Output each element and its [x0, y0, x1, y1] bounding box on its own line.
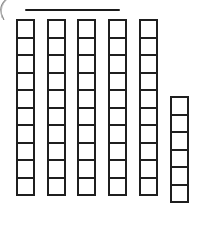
rod-4[interactable] [108, 19, 127, 196]
unit-square[interactable] [47, 177, 66, 197]
unit-square[interactable] [77, 177, 96, 197]
unit-square[interactable] [139, 177, 158, 197]
top-horizontal-rule [25, 9, 120, 11]
rod-2[interactable] [47, 19, 66, 196]
unit-square[interactable] [16, 177, 35, 197]
unit-square[interactable] [108, 177, 127, 197]
rod-5[interactable] [139, 19, 158, 196]
unit-square[interactable] [170, 184, 189, 204]
figure-canvas [0, 0, 203, 228]
rod-3[interactable] [77, 19, 96, 196]
rod-6[interactable] [170, 96, 189, 203]
corner-arc-mark [0, 0, 20, 20]
rod-1[interactable] [16, 19, 35, 196]
